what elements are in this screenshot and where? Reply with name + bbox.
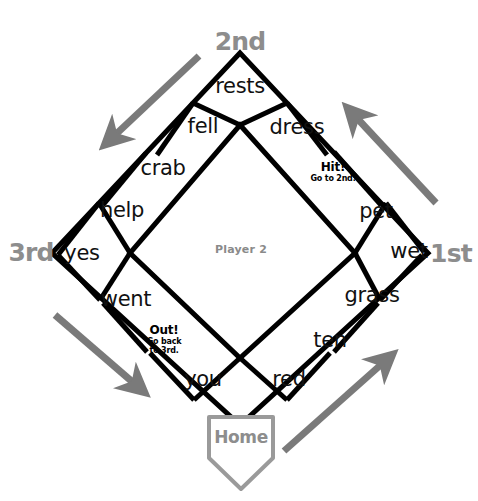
cell-hit[interactable]: Hit! Go to 2nd. bbox=[311, 161, 356, 183]
arrow-home-to-first bbox=[284, 362, 384, 451]
base-label-third: 3rd bbox=[8, 238, 53, 267]
cell-hit-sub: Go to 2nd. bbox=[311, 175, 356, 183]
base-label-second: 2nd bbox=[215, 27, 266, 56]
base-label-home: Home bbox=[214, 427, 268, 447]
base-label-first: 1st bbox=[430, 239, 472, 268]
player-label: Player 2 bbox=[215, 243, 267, 256]
cell-out-sub-line2: to 3rd. bbox=[147, 347, 182, 355]
cell-out[interactable]: Out! Go back to 3rd. bbox=[147, 324, 182, 355]
cell-out-title: Out! bbox=[147, 324, 182, 337]
cell-out-sub-line1: Go back bbox=[147, 338, 182, 346]
cell-hit-title: Hit! bbox=[311, 161, 356, 174]
game-board: 2nd 3rd 1st Home Player 2 rests dress Hi… bbox=[0, 0, 478, 501]
